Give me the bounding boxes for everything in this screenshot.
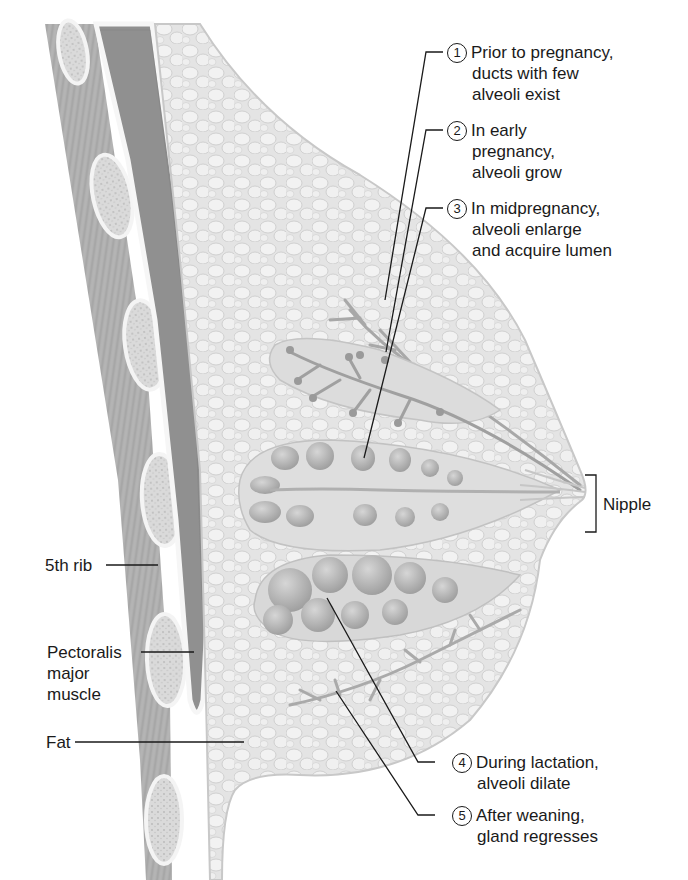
callout-4-line-2: alveoli dilate — [452, 773, 599, 794]
pectoralis-line-2: major — [47, 663, 122, 684]
breast-anatomy-illustration — [0, 0, 688, 880]
callout-3-line-2: alveoli enlarge — [447, 219, 612, 240]
callout-4-line-1: During lactation, — [476, 753, 599, 772]
callout-stage-4: 4During lactation, alveoli dilate — [452, 752, 599, 794]
callout-1-line-2: ducts with few — [447, 63, 613, 84]
callout-stage-3: 3In midpregnancy, alveoli enlarge and ac… — [447, 198, 612, 261]
label-5th-rib: 5th rib — [45, 555, 92, 576]
callout-2-line-1: In early — [471, 121, 527, 140]
label-nipple: Nipple — [603, 494, 651, 515]
label-fat: Fat — [46, 732, 71, 753]
callout-2-line-2: pregnancy, — [447, 141, 562, 162]
number-3-icon: 3 — [447, 199, 467, 219]
callout-stage-5: 5After weaning, gland regresses — [452, 805, 598, 847]
callout-stage-2: 2In early pregnancy, alveoli grow — [447, 120, 562, 183]
pectoralis-line-1: Pectoralis — [47, 642, 122, 663]
number-4-icon: 4 — [452, 753, 472, 773]
number-2-icon: 2 — [447, 121, 467, 141]
callout-3-line-3: and acquire lumen — [447, 240, 612, 261]
callout-5-line-1: After weaning, — [476, 806, 585, 825]
callout-1-line-1: Prior to pregnancy, — [471, 43, 613, 62]
callout-5-line-2: gland regresses — [452, 826, 598, 847]
pectoralis-line-3: muscle — [47, 684, 122, 705]
label-pectoralis-major-muscle: Pectoralis major muscle — [47, 642, 122, 705]
callout-1-line-3: alveoli exist — [447, 84, 613, 105]
nipple-bracket — [585, 475, 596, 532]
number-5-icon: 5 — [452, 806, 472, 826]
callout-3-line-1: In midpregnancy, — [471, 199, 600, 218]
number-1-icon: 1 — [447, 43, 467, 63]
callout-stage-1: 1Prior to pregnancy, ducts with few alve… — [447, 42, 613, 105]
callout-2-line-3: alveoli grow — [447, 162, 562, 183]
